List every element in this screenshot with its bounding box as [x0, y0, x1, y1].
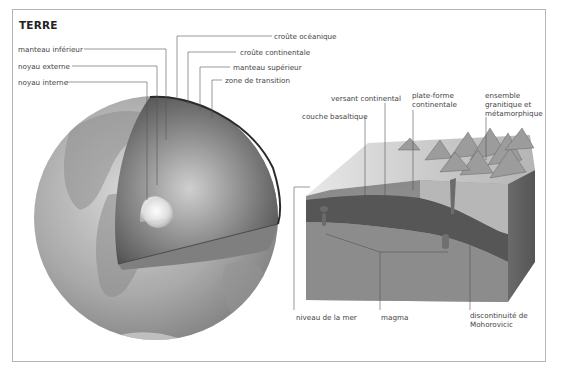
- label-noyau-externe: noyau externe: [18, 62, 70, 71]
- label-line: plate-forme: [412, 91, 457, 100]
- label-line: discontinuité de: [470, 311, 528, 320]
- label-manteau-inferieur: manteau inférieur: [18, 45, 83, 54]
- label-ensemble-granitique: ensemble granitique et métamorphique: [485, 91, 543, 118]
- label-niveau-de-la-mer: niveau de la mer: [296, 313, 357, 322]
- label-zone-de-transition: zone de transition: [225, 76, 290, 85]
- label-magma: magma: [381, 313, 408, 322]
- label-versant-continental: versant continental: [331, 94, 401, 103]
- label-line: métamorphique: [485, 109, 543, 118]
- label-line: Mohorovicic: [470, 320, 528, 329]
- label-croute-oceanique: croûte océanique: [274, 32, 337, 41]
- label-manteau-superieur: manteau supérieur: [233, 63, 302, 72]
- label-croute-continentale: croûte continentale: [240, 48, 310, 57]
- label-line: granitique et: [485, 100, 543, 109]
- label-discontinuite-mohorovicic: discontinuité de Mohorovicic: [470, 311, 528, 329]
- label-noyau-interne: noyau interne: [18, 78, 68, 87]
- label-plate-forme-continentale: plate-forme continentale: [412, 91, 457, 109]
- label-line: ensemble: [485, 91, 543, 100]
- crust-block-diagram: [306, 128, 535, 302]
- label-line: continentale: [412, 100, 457, 109]
- label-couche-basaltique: couche basaltique: [302, 112, 368, 121]
